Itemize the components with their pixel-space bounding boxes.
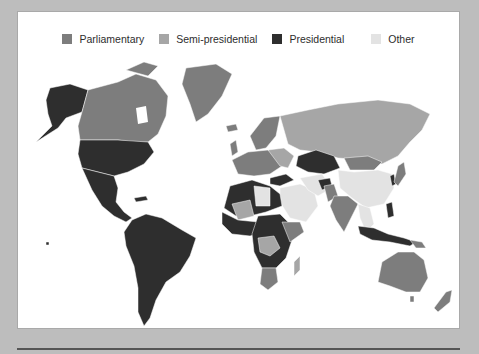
legend-label: Other bbox=[388, 33, 414, 45]
region-scandinavia bbox=[250, 116, 280, 150]
region-philippines bbox=[386, 202, 394, 218]
region-indonesia bbox=[358, 226, 416, 246]
region-india bbox=[330, 196, 358, 232]
region-greenland bbox=[182, 64, 232, 122]
legend-label: Parliamentary bbox=[79, 33, 144, 45]
legend-label: Semi-presidential bbox=[176, 33, 257, 45]
legend-label: Presidential bbox=[289, 33, 344, 45]
world-map bbox=[18, 56, 460, 329]
swatch-other bbox=[371, 34, 381, 44]
region-madagascar bbox=[294, 256, 300, 276]
legend-item-presidential: Presidential bbox=[272, 33, 344, 45]
region-canada bbox=[78, 74, 168, 142]
region-canada-arctic bbox=[126, 62, 158, 76]
swatch-presidential bbox=[272, 34, 282, 44]
region-turkey bbox=[270, 174, 294, 186]
legend-item-semi-presidential: Semi-presidential bbox=[159, 33, 257, 45]
region-japan bbox=[394, 162, 406, 186]
map-card: Parliamentary Semi-presidential Presiden… bbox=[17, 11, 460, 329]
region-new-zealand bbox=[434, 290, 452, 312]
legend: Parliamentary Semi-presidential Presiden… bbox=[18, 33, 459, 45]
region-libya bbox=[254, 186, 270, 206]
legend-item-parliamentary: Parliamentary bbox=[62, 33, 144, 45]
divider-line bbox=[17, 348, 460, 350]
region-southern-africa bbox=[260, 268, 278, 290]
region-uk bbox=[230, 140, 238, 156]
swatch-parliamentary bbox=[62, 34, 72, 44]
region-australia bbox=[378, 252, 428, 292]
legend-item-other: Other bbox=[371, 33, 414, 45]
region-iceland bbox=[226, 124, 238, 132]
swatch-semi-presidential bbox=[159, 34, 169, 44]
region-north-africa bbox=[224, 180, 282, 216]
region-mexico bbox=[82, 168, 132, 222]
region-south-america bbox=[124, 214, 196, 326]
